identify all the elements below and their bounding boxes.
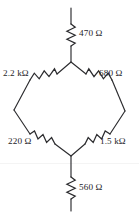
label-bottom-series-resistor: 560 Ω bbox=[79, 182, 102, 192]
label-upper-right-bridge-resistor: 680 Ω bbox=[99, 68, 122, 78]
label-upper-left-bridge-resistor: 2.2 kΩ bbox=[3, 68, 29, 78]
circuit-schematic-canvas bbox=[0, 0, 139, 217]
wire-bridge-upper-left-b bbox=[14, 80, 30, 110]
label-top-series-resistor: 470 Ω bbox=[79, 28, 102, 38]
label-lower-right-bridge-resistor: 1.5 kΩ bbox=[100, 136, 126, 146]
circuit-diagram-figure: 470 Ω 2.2 kΩ 680 Ω 220 Ω 1.5 kΩ 560 Ω bbox=[0, 0, 139, 217]
top-series-resistor-symbol bbox=[67, 24, 75, 46]
upper-left-bridge-resistor-symbol bbox=[30, 69, 57, 80]
wire-bridge-lower-left-a bbox=[14, 110, 30, 134]
wire-bridge-upper-right-a bbox=[71, 62, 86, 74]
lower-left-bridge-resistor-symbol bbox=[30, 131, 55, 144]
label-lower-left-bridge-resistor: 220 Ω bbox=[8, 136, 31, 146]
bottom-series-resistor-symbol bbox=[67, 177, 75, 199]
wire-bridge-upper-left-a bbox=[57, 62, 71, 74]
wire-bridge-lower-right-b bbox=[71, 144, 85, 156]
wire-bridge-lower-right-a bbox=[110, 111, 125, 134]
wire-bridge-upper-right-b bbox=[112, 80, 125, 111]
wire-bridge-lower-left-b bbox=[55, 144, 71, 156]
